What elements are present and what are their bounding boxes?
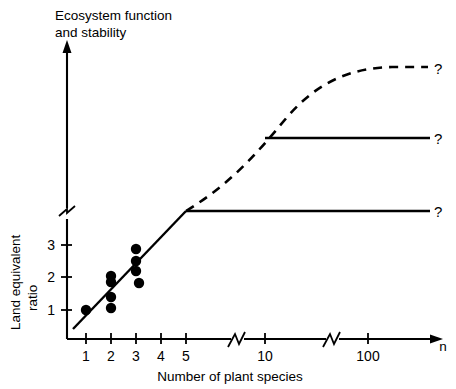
y-tick-label-3: 3 <box>47 237 55 253</box>
scatter-points <box>81 244 144 315</box>
x-tick-label-2: 2 <box>107 348 115 364</box>
x-tick-label-10: 10 <box>257 348 273 364</box>
dashed-curve-question-mark: ? <box>434 60 442 77</box>
chart-title-line1: Ecosystem function <box>55 8 172 23</box>
chart-title-line2: and stability <box>55 25 127 40</box>
data-point <box>106 292 116 302</box>
plateau-mid-question-mark: ? <box>434 130 442 147</box>
plateau-low-question-mark: ? <box>434 203 442 220</box>
figure-root: Ecosystem function and stability 3 2 1 L… <box>0 0 456 389</box>
y-axis-title-line1: Land equivalent <box>8 234 23 330</box>
chart-canvas: Ecosystem function and stability 3 2 1 L… <box>0 0 456 389</box>
data-point <box>134 278 144 288</box>
x-tick-label-1: 1 <box>82 348 90 364</box>
x-tick-label-4: 4 <box>157 348 165 364</box>
x-axis-variable-symbol: n <box>439 339 447 354</box>
x-tick-label-5: 5 <box>182 348 190 364</box>
data-point <box>81 305 91 315</box>
x-axis <box>67 332 443 347</box>
data-point <box>106 277 116 287</box>
y-tick-label-2: 2 <box>47 269 55 285</box>
data-point <box>106 303 116 313</box>
y-axis <box>59 40 75 339</box>
data-point <box>131 244 141 254</box>
x-tick-label-3: 3 <box>132 348 140 364</box>
y-axis-arrowhead <box>63 40 72 53</box>
data-point <box>131 256 141 266</box>
x-axis-title: Number of plant species <box>157 369 303 384</box>
y-axis-title: Land equivalent ratio <box>8 234 40 330</box>
y-axis-title-line2: ratio <box>25 285 40 311</box>
x-tick-label-100: 100 <box>356 348 380 364</box>
y-tick-label-1: 1 <box>47 302 55 318</box>
data-point <box>131 266 141 276</box>
